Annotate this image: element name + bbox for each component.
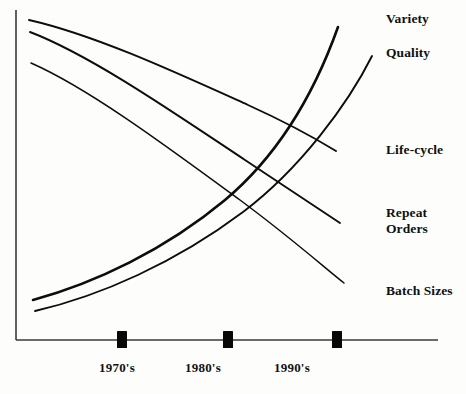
series-label-variety: Variety [386,11,429,27]
series-label-quality: Quality [386,45,430,61]
series-line-variety [33,27,338,300]
series-label-batch-sizes: Batch Sizes [386,283,453,299]
x-tick-marker-1970s [117,331,127,348]
x-tick-marker-1980s [223,331,233,348]
x-tick-marker-1990s [332,331,342,348]
x-axis-label-1990s: 1990's [237,360,347,376]
series-label-life-cycle: Life-cycle [386,142,443,158]
series-label-repeat-orders: Repeat Orders [386,205,428,237]
series-line-quality [35,56,372,311]
chart-container: Variety Quality Life-cycle Repeat Orders… [0,0,466,394]
